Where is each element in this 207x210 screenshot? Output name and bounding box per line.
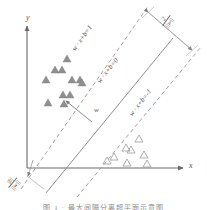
positive-class-points <box>42 55 86 107</box>
lower-margin-line <box>77 47 201 197</box>
margin-width-bracket <box>142 7 198 56</box>
upper-margin-line <box>21 5 149 189</box>
negative-class-points <box>103 135 151 167</box>
origin-distance-indicator <box>27 160 44 189</box>
svm-margin-figure: y x w · x+b=1 w · x+b=0 w · x+b=-1 w 2 |… <box>0 0 207 210</box>
figure-caption: 图 1 · 最大间隔分离超平面示意图 <box>0 202 207 210</box>
diagram-canvas <box>0 0 207 210</box>
